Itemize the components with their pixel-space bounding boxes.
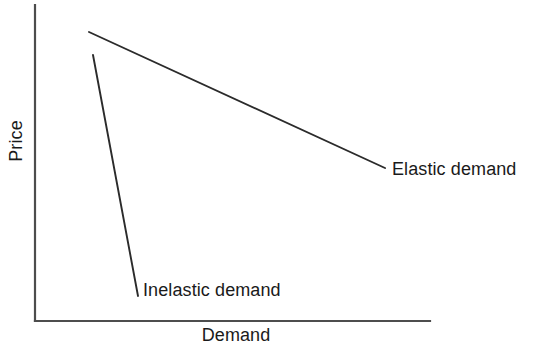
y-axis-label: Price bbox=[7, 120, 25, 162]
x-axis-label: Demand bbox=[202, 326, 271, 344]
inelastic-demand-label: Inelastic demand bbox=[143, 281, 281, 299]
elastic-demand-label: Elastic demand bbox=[392, 160, 516, 178]
inelastic-demand-curve bbox=[93, 55, 138, 296]
demand-elasticity-chart: Price Demand Elastic demand Inelastic de… bbox=[0, 0, 533, 347]
elastic-demand-curve bbox=[89, 32, 385, 168]
